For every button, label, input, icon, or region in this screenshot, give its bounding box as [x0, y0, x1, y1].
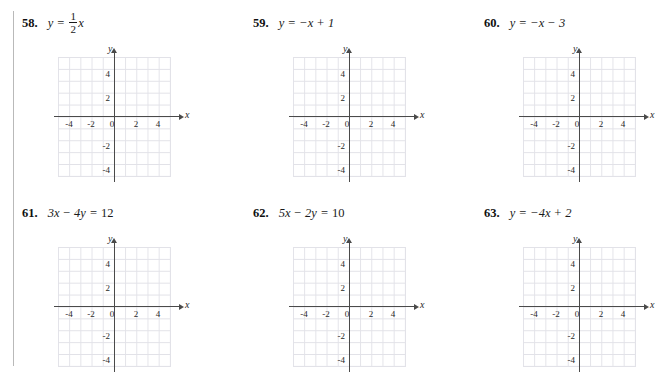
problem-61-number: 61. [22, 206, 38, 221]
y-tick-2: 2 [96, 283, 110, 293]
x-tick-neg2: -2 [318, 119, 334, 129]
problem-62-graph: x y -4 -2 0 2 4 4 2 -2 -4 [293, 238, 433, 378]
coordinate-grid [293, 57, 406, 177]
x-axis-label: x [650, 299, 654, 310]
problem-60-number: 60. [484, 16, 500, 31]
x-axis [289, 306, 415, 307]
y-tick-neg4: -4 [331, 165, 345, 175]
problem-62-equals: = [321, 206, 328, 221]
problem-61-equation: 3x − 4y = 12 [48, 206, 114, 221]
problem-58-equals: = [57, 16, 64, 31]
worksheet-page: 58. y = 1 2 x x y -4 -2 0 2 4 4 [0, 0, 671, 380]
x-tick-neg2: -2 [548, 119, 564, 129]
origin-label: 0 [571, 309, 583, 319]
x-tick-2: 2 [593, 119, 609, 129]
problem-58-fraction: 1 2 [69, 11, 77, 34]
x-axis [54, 116, 180, 117]
problem-59-graph: x y -4 -2 0 2 4 4 2 -2 -4 [293, 48, 433, 188]
problem-58-lhs: y [48, 16, 54, 31]
problem-60-header: 60. y = −x − 3 [484, 8, 565, 38]
x-axis [519, 306, 645, 307]
x-tick-4: 4 [150, 309, 166, 319]
y-tick-4: 4 [96, 69, 110, 79]
y-tick-4: 4 [96, 259, 110, 269]
x-tick-neg2: -2 [83, 119, 99, 129]
x-axis-label: x [185, 109, 189, 120]
y-tick-4: 4 [331, 259, 345, 269]
y-tick-neg2: -2 [96, 331, 110, 341]
x-tick-2: 2 [593, 309, 609, 319]
problem-63-equation: y = −4x + 2 [510, 206, 572, 221]
problem-60-graph: x y -4 -2 0 2 4 4 2 -2 -4 [523, 48, 663, 188]
problem-61-rhs: 12 [101, 206, 114, 221]
coordinate-grid [293, 247, 406, 367]
y-axis-label: y [343, 233, 347, 244]
x-tick-4: 4 [385, 119, 401, 129]
x-tick-4: 4 [615, 309, 631, 319]
problem-58-fraction-numerator: 1 [70, 11, 78, 21]
problem-62-rhs: 10 [332, 206, 345, 221]
problem-60-equals: = [519, 16, 526, 31]
x-axis [519, 116, 645, 117]
origin-label: 0 [571, 119, 583, 129]
problem-60-rhs: −x − 3 [530, 16, 565, 31]
y-axis [349, 242, 350, 372]
x-axis-label: x [420, 109, 424, 120]
y-tick-neg4: -4 [331, 355, 345, 365]
problem-63-rhs: −4x + 2 [530, 206, 571, 221]
problem-61-equals: = [90, 206, 97, 221]
x-tick-neg4: -4 [526, 119, 542, 129]
problem-63-header: 63. y = −4x + 2 [484, 198, 571, 228]
x-tick-neg4: -4 [61, 119, 77, 129]
y-axis [114, 242, 115, 372]
x-tick-2: 2 [363, 119, 379, 129]
problem-59-equals: = [288, 16, 295, 31]
origin-label: 0 [106, 309, 118, 319]
y-tick-neg2: -2 [561, 141, 575, 151]
coordinate-grid [523, 247, 636, 367]
y-tick-neg2: -2 [331, 141, 345, 151]
problem-59-rhs: −x + 1 [299, 16, 334, 31]
problem-61-header: 61. 3x − 4y = 12 [22, 198, 113, 228]
y-axis-label: y [573, 233, 577, 244]
y-tick-4: 4 [561, 259, 575, 269]
y-tick-neg2: -2 [331, 331, 345, 341]
problem-61: 61. 3x − 4y = 12 x y -4 -2 0 2 4 4 2 -2 … [22, 190, 232, 380]
y-axis [349, 52, 350, 182]
y-axis [579, 52, 580, 182]
coordinate-grid [58, 247, 171, 367]
y-tick-neg4: -4 [96, 165, 110, 175]
problem-63-graph: x y -4 -2 0 2 4 4 2 -2 -4 [523, 238, 663, 378]
page-margin-rule [13, 11, 14, 366]
y-tick-neg4: -4 [561, 165, 575, 175]
y-tick-neg4: -4 [96, 355, 110, 365]
y-tick-4: 4 [331, 69, 345, 79]
x-tick-4: 4 [150, 119, 166, 129]
x-tick-2: 2 [363, 309, 379, 319]
y-axis-label: y [108, 233, 112, 244]
y-tick-2: 2 [96, 93, 110, 103]
problem-59-equation: y = −x + 1 [279, 16, 335, 31]
problem-58-equation: y = 1 2 x [48, 12, 84, 35]
problem-63: 63. y = −4x + 2 x y -4 -2 0 2 4 4 2 -2 -… [484, 190, 671, 380]
y-tick-2: 2 [331, 93, 345, 103]
problem-62-header: 62. 5x − 2y = 10 [253, 198, 344, 228]
x-tick-neg2: -2 [318, 309, 334, 319]
problem-59: 59. y = −x + 1 x y -4 -2 0 2 4 4 2 -2 -4 [253, 0, 463, 190]
x-tick-neg2: -2 [83, 309, 99, 319]
x-axis [54, 306, 180, 307]
y-axis [114, 52, 115, 182]
origin-label: 0 [341, 119, 353, 129]
problem-58-fraction-denominator: 2 [70, 24, 78, 34]
y-tick-4: 4 [561, 69, 575, 79]
problem-60: 60. y = −x − 3 x y -4 -2 0 2 4 4 2 -2 -4 [484, 0, 671, 190]
problem-62-lhs: 5x − 2y [279, 206, 317, 221]
y-axis [579, 242, 580, 372]
problem-59-header: 59. y = −x + 1 [253, 8, 334, 38]
x-tick-neg2: -2 [548, 309, 564, 319]
problem-61-lhs: 3x − 4y [48, 206, 86, 221]
problem-60-lhs: y [510, 16, 516, 31]
x-tick-neg4: -4 [296, 119, 312, 129]
problem-58-number: 58. [22, 16, 38, 31]
x-tick-4: 4 [615, 119, 631, 129]
